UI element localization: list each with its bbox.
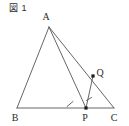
tick-on-PQ-icon — [87, 98, 92, 101]
vertex-label-B: B — [12, 112, 19, 123]
vertex-label-C: C — [111, 112, 118, 123]
segment-AC — [49, 27, 114, 108]
point-marker-Q — [91, 74, 94, 77]
segment-PQ — [86, 76, 93, 108]
tick-on-BP-icon — [67, 102, 73, 107]
point-marker-P — [84, 106, 87, 109]
geometry-diagram: A B C P Q — [0, 0, 129, 126]
segment-AB — [17, 27, 49, 108]
figure-root: 図 1 A B C P Q — [0, 0, 129, 126]
segment-AP — [49, 27, 86, 108]
vertex-label-group: A B C P Q — [12, 11, 118, 123]
vertex-label-A: A — [42, 11, 50, 22]
vertex-label-P: P — [82, 112, 88, 123]
vertex-label-Q: Q — [96, 67, 104, 78]
